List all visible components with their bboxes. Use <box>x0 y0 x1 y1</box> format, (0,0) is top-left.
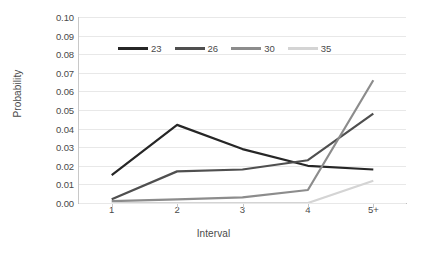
x-axis-tick-mark <box>308 204 309 208</box>
legend-swatch-23 <box>118 47 148 50</box>
y-axis-title: Probability <box>12 39 23 149</box>
legend-label-23: 23 <box>151 43 162 54</box>
y-axis-tick-label: 0.03 <box>30 142 74 153</box>
line-chart: Probability Interval 0.100.090.080.070.0… <box>0 0 427 253</box>
y-axis-tick-label: 0.02 <box>30 160 74 171</box>
gridline <box>79 203 406 204</box>
legend-swatch-30 <box>231 47 261 50</box>
x-axis-tick-mark <box>243 204 244 208</box>
y-axis-tick-label: 0.01 <box>30 179 74 190</box>
y-axis-tick-label: 0.06 <box>30 86 74 97</box>
legend-swatch-26 <box>175 47 205 50</box>
y-axis-tick-label: 0.05 <box>30 105 74 116</box>
legend: 23263035 <box>118 43 331 54</box>
series-line-26 <box>112 114 374 200</box>
x-axis-tick-mark <box>373 204 374 208</box>
x-axis-title: Interval <box>0 228 427 239</box>
legend-label-30: 30 <box>264 43 275 54</box>
y-axis-tick-label: 0.07 <box>30 67 74 78</box>
legend-label-35: 35 <box>321 43 332 54</box>
y-axis-tick-label: 0.08 <box>30 49 74 60</box>
legend-item-26[interactable]: 26 <box>175 43 219 54</box>
legend-item-23[interactable]: 23 <box>118 43 162 54</box>
y-axis-tick-label: 0.10 <box>30 12 74 23</box>
x-axis-tick-mark <box>112 204 113 208</box>
legend-label-26: 26 <box>208 43 219 54</box>
legend-swatch-35 <box>288 47 318 50</box>
legend-item-35[interactable]: 35 <box>288 43 332 54</box>
y-axis-tick-label: 0.00 <box>30 198 74 209</box>
y-axis-tick-label: 0.04 <box>30 123 74 134</box>
y-axis-tick-label: 0.09 <box>30 30 74 41</box>
x-axis-tick-mark <box>177 204 178 208</box>
legend-item-30[interactable]: 30 <box>231 43 275 54</box>
series-line-23 <box>112 125 374 175</box>
